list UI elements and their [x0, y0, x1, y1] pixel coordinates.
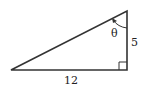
right-angle-marker: [119, 62, 127, 70]
angle-label: θ: [111, 27, 118, 40]
arrowhead-icon: [112, 18, 117, 23]
right-triangle: [11, 11, 127, 70]
height-label: 5: [131, 36, 138, 49]
base-label: 12: [64, 74, 78, 87]
triangle-diagram: θ 5 12: [0, 0, 142, 89]
